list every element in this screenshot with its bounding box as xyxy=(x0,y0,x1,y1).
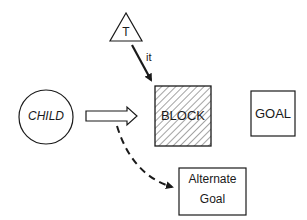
child-label: CHILD xyxy=(19,110,73,122)
alternate-goal-label-line1: Alternate xyxy=(179,173,246,185)
block-label: BLOCK xyxy=(157,109,209,122)
edge-child-to-block xyxy=(86,107,137,125)
edge-label-it: it xyxy=(146,52,152,63)
diagram-canvas: T it CHILD BLOCK GOAL Alternate Goal xyxy=(0,0,307,220)
teacher-label: T xyxy=(119,26,133,38)
alternate-goal-label-line2: Goal xyxy=(179,193,246,205)
goal-label: GOAL xyxy=(251,107,295,120)
